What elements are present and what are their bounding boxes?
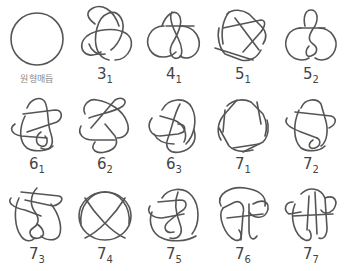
knot-label-7-2: 72: [277, 156, 345, 172]
knot-label-7-1: 71: [209, 156, 277, 172]
knot-cell-6-3: 63: [140, 90, 208, 180]
knot-7-3-diagram: [7, 184, 67, 246]
knot-7-7-diagram: [281, 184, 341, 246]
knot-6-3-diagram: [144, 94, 204, 156]
stevedore-knot-diagram: [7, 94, 67, 156]
three-twist-knot-diagram: [281, 4, 341, 66]
knot-cell-7-6: 76: [209, 180, 277, 270]
knot-cell-7-3: 73: [3, 180, 71, 270]
cinquefoil-knot-diagram: [213, 4, 273, 66]
knot-cell-7-5: 75: [140, 180, 208, 270]
knot-label-6-3: 63: [140, 156, 208, 172]
figure-eight-knot-diagram: [144, 4, 204, 66]
knot-table: 원형매듭 31 41 51: [0, 0, 347, 271]
knot-cell-5-2: 52: [277, 0, 345, 90]
trefoil-knot-diagram: [75, 4, 135, 66]
knot-label-5-1: 51: [209, 66, 277, 82]
knot-label-7-7: 77: [277, 246, 345, 262]
knot-cell-7-7: 77: [277, 180, 345, 270]
knot-label-4-1: 41: [140, 66, 208, 82]
knot-7-2-diagram: [281, 94, 341, 156]
knot-cell-7-4: 74: [71, 180, 139, 270]
knot-6-2-diagram: [75, 94, 135, 156]
septafoil-knot-diagram: [213, 94, 273, 156]
knot-label-7-6: 76: [209, 246, 277, 262]
knot-cell-5-1: 51: [209, 0, 277, 90]
knot-label-unknot: 원형매듭: [3, 71, 71, 87]
knot-label-6-2: 62: [71, 156, 139, 172]
knot-label-3-1: 31: [71, 66, 139, 82]
knot-cell-6-1: 61: [3, 90, 71, 180]
knot-label-6-1: 61: [3, 156, 71, 172]
knot-label-7-5: 75: [140, 246, 208, 262]
knot-cell-unknot: 원형매듭: [3, 0, 71, 90]
knot-7-4-diagram: [75, 184, 135, 246]
knot-7-6-diagram: [213, 184, 273, 246]
knot-cell-7-2: 72: [277, 90, 345, 180]
unknot-diagram: [7, 4, 67, 66]
knot-label-5-2: 52: [277, 66, 345, 82]
knot-label-7-3: 73: [3, 246, 71, 262]
knot-cell-7-1: 71: [209, 90, 277, 180]
knot-cell-3-1: 31: [71, 0, 139, 90]
knot-cell-4-1: 41: [140, 0, 208, 90]
knot-7-5-diagram: [144, 184, 204, 246]
knot-label-7-4: 74: [71, 246, 139, 262]
knot-cell-6-2: 62: [71, 90, 139, 180]
